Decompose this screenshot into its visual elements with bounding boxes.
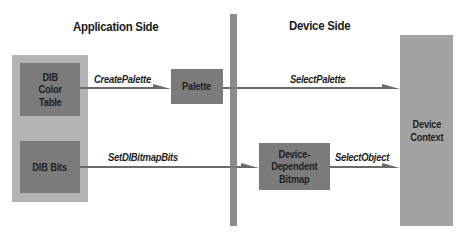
select-palette-label: SelectPalette xyxy=(290,73,345,85)
select-object-label: SelectObject xyxy=(335,151,389,163)
set-di-bitmap-bits-label: SetDIBitmapBits xyxy=(108,151,178,163)
select-object-arrow xyxy=(330,163,400,168)
create-palette-label: CreatePalette xyxy=(94,73,151,85)
side-divider-overlay xyxy=(230,14,237,226)
